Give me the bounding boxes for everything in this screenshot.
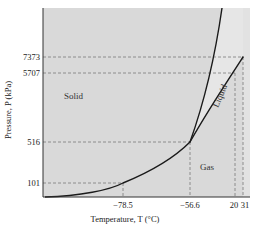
y-tick-101: 101 bbox=[27, 178, 40, 188]
phase-diagram: 7373 5707 516 101 −78.5 −56.6 20 31 Temp… bbox=[0, 0, 258, 228]
triple-point bbox=[189, 141, 191, 143]
x-tick-31: 31 bbox=[241, 200, 250, 210]
y-tick-7373: 7373 bbox=[23, 52, 40, 62]
region-label-solid: Solid bbox=[64, 91, 84, 101]
x-tick-20: 20 bbox=[230, 200, 239, 210]
region-label-gas: Gas bbox=[200, 162, 214, 172]
y-tick-516: 516 bbox=[27, 137, 40, 147]
x-axis-title: Temperature, T (°C) bbox=[91, 214, 160, 224]
y-axis-title: Pressure, P (kPa) bbox=[3, 81, 13, 139]
critical-point bbox=[242, 56, 244, 58]
x-tick-neg56-6: −56.6 bbox=[180, 200, 200, 210]
x-tick-neg78-5: −78.5 bbox=[113, 200, 133, 210]
supercritical-region bbox=[243, 8, 250, 197]
y-tick-5707: 5707 bbox=[23, 68, 40, 78]
